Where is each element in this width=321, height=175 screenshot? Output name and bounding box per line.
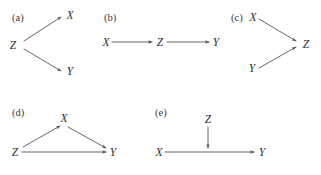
panel-d-edge-x-to-y (68, 127, 106, 148)
panel-c-label: (c) (231, 12, 243, 24)
panel-c: (c) X Y Z (231, 11, 310, 74)
panel-b-node-z: Z (157, 36, 164, 48)
panel-a-edge-z-to-y (24, 49, 61, 71)
panel-a-node-z: Z (10, 39, 17, 51)
panel-e: (e) Z X Y (154, 107, 266, 158)
panel-b-label: (b) (104, 12, 117, 24)
panel-d: (d) X Z Y (12, 107, 118, 158)
causal-dag-figure: (a) Z X Y (b) X Z Y (c) X Y Z (d (0, 0, 321, 175)
panel-a-node-x: X (65, 9, 74, 21)
panel-b: (b) X Z Y (101, 12, 220, 48)
panel-a-label: (a) (12, 12, 24, 24)
panel-a: (a) Z X Y (10, 9, 75, 77)
panel-d-node-y: Y (110, 146, 118, 158)
panel-a-edge-z-to-x (24, 17, 61, 41)
panel-d-edge-z-to-x (23, 126, 60, 147)
panel-d-label: (d) (12, 107, 25, 119)
panel-c-node-x: X (248, 11, 257, 23)
panel-c-edge-y-to-z (259, 47, 296, 68)
panel-c-node-y: Y (249, 62, 257, 74)
panel-d-node-x: X (59, 112, 68, 124)
panel-d-node-z: Z (12, 146, 19, 158)
panel-e-label: (e) (155, 107, 167, 119)
panel-a-node-y: Y (67, 65, 75, 77)
panel-e-node-y: Y (259, 146, 267, 158)
panel-c-edge-x-to-z (259, 19, 296, 41)
panel-e-node-z: Z (205, 113, 212, 125)
panel-c-node-z: Z (303, 38, 310, 50)
panel-b-node-x: X (101, 36, 110, 48)
panel-e-node-x: X (154, 146, 163, 158)
panel-b-node-y: Y (213, 36, 221, 48)
dag-canvas: (a) Z X Y (b) X Z Y (c) X Y Z (d (0, 0, 321, 175)
